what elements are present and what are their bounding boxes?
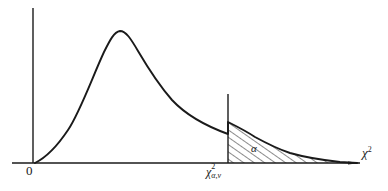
origin-label: 0 bbox=[26, 164, 33, 177]
x-axis-label-exponent: 2 bbox=[368, 145, 372, 154]
critical-value-subscript: α,ν bbox=[211, 172, 221, 180]
tail-area-alpha-label: α bbox=[251, 143, 257, 154]
critical-value-exponent: 2 bbox=[211, 163, 215, 171]
density-curve-left bbox=[35, 31, 228, 163]
x-axis-label: χ2 bbox=[362, 146, 372, 159]
chi-square-distribution-figure bbox=[0, 0, 388, 191]
critical-value-label: χ2α,ν bbox=[206, 166, 211, 178]
